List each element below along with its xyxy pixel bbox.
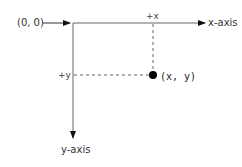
point-marker: [149, 71, 157, 79]
y-axis-label: y-axis: [61, 144, 90, 155]
x-axis-label: x-axis: [208, 17, 238, 28]
origin-label: (0, 0): [17, 17, 44, 28]
coordinate-diagram: (0, 0) x-axis y-axis +x +y (x, y): [0, 0, 242, 167]
plus-x-label: +x: [146, 11, 160, 21]
point-label: (x, y): [160, 71, 196, 82]
plus-y-label: +y: [58, 70, 72, 80]
